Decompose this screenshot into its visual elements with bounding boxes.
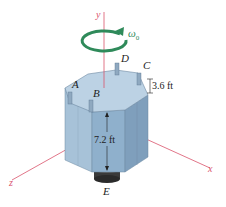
point-e-label: E: [103, 186, 110, 197]
diagram-canvas: [0, 0, 226, 207]
post-c: [137, 73, 141, 85]
x-axis-label: x: [208, 164, 212, 174]
point-c-label: C: [143, 60, 150, 71]
omega-subscript: 0: [136, 34, 140, 42]
post-d: [115, 63, 119, 75]
point-d-label: D: [121, 53, 129, 64]
omega-label: ω0: [128, 28, 139, 42]
post-b: [89, 100, 93, 112]
body-height-label: 7.2 ft: [94, 135, 115, 145]
post-height-label: 3.6 ft: [152, 81, 173, 91]
point-b-label: B: [93, 88, 100, 99]
point-a-label: A: [72, 79, 79, 90]
y-axis-label: y: [96, 10, 100, 20]
omega-symbol: ω: [128, 27, 136, 39]
z-axis-label: z: [9, 178, 13, 188]
tank-diagram: y x z ω0 A B C D E 3.6 ft 7.2 ft: [0, 0, 226, 207]
post-a: [68, 92, 72, 104]
